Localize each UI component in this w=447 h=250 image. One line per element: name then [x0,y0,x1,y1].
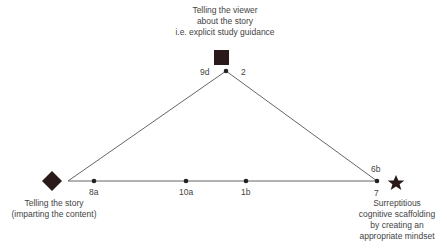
point-8a-dot [92,179,97,184]
point-label-8a: 8a [89,187,98,197]
label-line: about the story [150,16,300,27]
left-vertex-label: Telling the story (imparting the content… [4,198,104,220]
point-label-2: 2 [241,67,246,77]
diamond-icon [42,171,62,191]
label-line: i.e. explicit study guidance [150,27,300,38]
point-label-9d: 9d [200,67,209,77]
star-icon [388,175,405,190]
point-label-10a: 10a [179,187,193,197]
point-label-1b: 1b [241,187,250,197]
label-line: (imparting the content) [4,209,104,220]
label-line: Telling the story [4,198,104,209]
apex-dot [224,69,229,74]
label-line: Telling the viewer [150,5,300,16]
label-line: appropriate mindset [347,231,447,242]
square-icon [214,50,229,65]
top-vertex-label: Telling the viewer about the story i.e. … [150,5,300,38]
label-line: cognitive scaffolding [347,209,447,220]
triangle-sides [68,71,377,181]
point-label-7: 7 [374,188,379,198]
label-line: Surreptitious [347,198,447,209]
right-vertex-dot [375,179,380,184]
label-line: by creating an [347,220,447,231]
point-label-6b: 6b [371,164,380,174]
point-10a-dot [184,179,189,184]
right-vertex-label: Surreptitious cognitive scaffolding by c… [347,198,447,242]
point-1b-dot [244,179,249,184]
